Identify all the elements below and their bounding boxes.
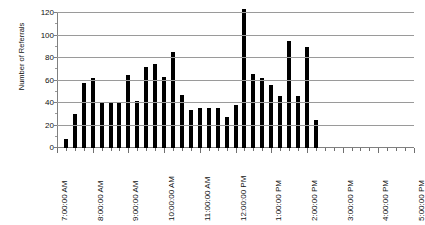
x-major-tickmark [414, 148, 415, 153]
y-tick-label: 100 [41, 32, 54, 40]
y-tickmark [54, 80, 57, 81]
bar [126, 75, 130, 148]
x-minor-tickmark [191, 148, 192, 151]
bar [234, 105, 238, 148]
bar [225, 117, 229, 149]
x-minor-tickmark [262, 148, 263, 151]
bar [216, 108, 220, 149]
bar [305, 47, 309, 148]
x-axis-tick-labels: 7:00:00 AM8:00:00 AM9:00:00 AM10:00:00 A… [57, 153, 414, 225]
referrals-histogram-chart: Number of Referrals 020406080100120 7:00… [0, 0, 425, 225]
gridline [57, 57, 414, 58]
x-minor-tickmark [119, 148, 120, 151]
x-minor-tickmark [209, 148, 210, 151]
x-minor-tickmark [405, 148, 406, 151]
bar [242, 9, 246, 149]
x-tick-label: 12:00:00 PM [240, 176, 248, 221]
x-tick-label: 10:00:00 AM [168, 176, 176, 221]
x-minor-tickmark [396, 148, 397, 151]
y-minor-tickmark [55, 68, 57, 69]
x-tick-label: 5:00:00 PM [418, 180, 425, 221]
x-minor-tickmark [155, 148, 156, 151]
bar [100, 103, 104, 148]
x-minor-tickmark [227, 148, 228, 151]
x-minor-tickmark [84, 148, 85, 151]
bar [117, 103, 121, 148]
x-minor-tickmark [289, 148, 290, 151]
gridline [57, 102, 414, 103]
y-tickmark [54, 35, 57, 36]
x-minor-tickmark [387, 148, 388, 151]
x-minor-tickmark [253, 148, 254, 151]
y-tick-label: 120 [41, 9, 54, 17]
x-minor-tickmark [316, 148, 317, 151]
bar [82, 83, 86, 148]
y-minor-tickmark [55, 46, 57, 47]
y-tick-label: 60 [45, 77, 54, 85]
bar [162, 77, 166, 148]
x-minor-tickmark [66, 148, 67, 151]
y-minor-tickmark [55, 23, 57, 24]
x-minor-tickmark [146, 148, 147, 151]
bar-series [57, 13, 414, 148]
bar [189, 110, 193, 148]
x-minor-tickmark [360, 148, 361, 151]
x-tick-label: 1:00:00 PM [275, 180, 283, 221]
y-tickmark [54, 102, 57, 103]
bar [296, 96, 300, 148]
bar [269, 85, 273, 148]
x-minor-tickmark [102, 148, 103, 151]
x-minor-tickmark [75, 148, 76, 151]
bar [109, 103, 113, 148]
plot-area [57, 13, 414, 148]
bar [207, 108, 211, 149]
bar [64, 139, 68, 148]
x-tick-label: 8:00:00 AM [97, 181, 105, 221]
x-minor-tickmark [111, 148, 112, 151]
bar [278, 96, 282, 148]
bar [91, 78, 95, 148]
x-tick-label: 4:00:00 PM [382, 180, 390, 221]
x-tick-label: 7:00:00 AM [61, 181, 69, 221]
x-minor-tickmark [325, 148, 326, 151]
x-minor-tickmark [173, 148, 174, 151]
y-tick-label: 20 [45, 122, 54, 130]
bar [251, 74, 255, 148]
y-tickmark [54, 57, 57, 58]
bar [180, 95, 184, 148]
x-tick-label: 9:00:00 AM [132, 181, 140, 221]
x-minor-tickmark [218, 148, 219, 151]
x-tick-label: 11:00:00 AM [204, 177, 212, 221]
y-minor-tickmark [55, 91, 57, 92]
x-minor-tickmark [352, 148, 353, 151]
x-minor-tickmark [298, 148, 299, 151]
y-tick-label: 40 [45, 99, 54, 107]
y-axis-tick-labels: 020406080100120 [22, 0, 54, 160]
bar [260, 78, 264, 148]
x-minor-tickmark [334, 148, 335, 151]
y-tickmark [54, 125, 57, 126]
x-minor-tickmark [182, 148, 183, 151]
y-tick-label: 80 [45, 54, 54, 62]
x-tick-label: 2:00:00 PM [311, 180, 319, 221]
x-minor-tickmark [280, 148, 281, 151]
x-minor-tickmark [369, 148, 370, 151]
bar [153, 64, 157, 148]
bar [73, 114, 77, 148]
x-minor-tickmark [137, 148, 138, 151]
y-minor-tickmark [55, 113, 57, 114]
gridline [57, 12, 414, 13]
bar [171, 52, 175, 148]
y-tickmark [54, 12, 57, 13]
x-minor-tickmark [244, 148, 245, 151]
y-minor-tickmark [55, 136, 57, 137]
gridline [57, 80, 414, 81]
y-tick-label: 0 [50, 144, 54, 152]
x-tick-label: 3:00:00 PM [347, 180, 355, 221]
bar [198, 108, 202, 149]
gridline [57, 125, 414, 126]
gridline [57, 35, 414, 36]
